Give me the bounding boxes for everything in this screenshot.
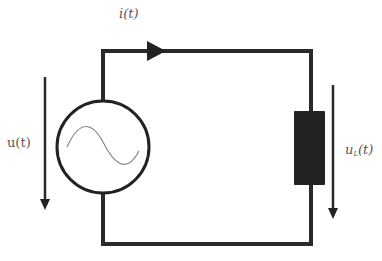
load-voltage-arrow — [328, 85, 338, 219]
source-voltage-arrowhead-icon — [40, 199, 50, 210]
load-voltage-label-arg: (t) — [358, 142, 373, 157]
load-voltage-label: uL(t) — [345, 142, 373, 158]
load-resistor — [294, 111, 325, 185]
current-arrowhead-icon — [147, 41, 166, 61]
source-voltage-arrow — [40, 77, 50, 210]
ac-source — [57, 101, 149, 193]
load-voltage-label-base: u — [345, 142, 353, 157]
ac-source-circle — [57, 101, 149, 193]
load-voltage-arrowhead-icon — [328, 208, 338, 219]
circuit-diagram: i(t) u(t) uL(t) — [0, 0, 382, 261]
current-label: i(t) — [119, 6, 139, 21]
source-voltage-label: u(t) — [7, 135, 31, 150]
